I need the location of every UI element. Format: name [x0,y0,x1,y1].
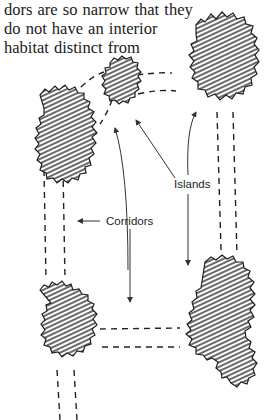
island-top-right [189,12,259,100]
islands-arrow-to-small [136,120,175,178]
leader-arrows [78,112,196,302]
islands-label: Islands [174,178,211,190]
island-bottom-right [186,255,257,387]
corridor-right-outer [217,112,221,250]
corridor-bottom-left-a [57,370,60,420]
island-bottom-left [40,281,97,357]
islands [35,12,259,387]
corridors-label: Corridors [106,215,154,227]
island-left [35,85,97,183]
islands-arrow-to-left [115,128,128,270]
corridor-mid-upper [80,72,104,88]
island-corridor-diagram: Islands Corridors [0,0,278,420]
island-small-center [102,56,141,104]
islands-arrow-to-topright [188,112,196,175]
corridor-mid-lower [100,100,112,124]
corridor-top-upper [137,73,172,75]
corridor-bottom-upper [100,328,180,329]
corridor-bottom-left-b [74,370,77,420]
corridor-right-inner [233,112,237,255]
corridor-left-inner [63,170,65,280]
corridor-top-lower [138,90,176,94]
corridor-left-outer [44,170,46,280]
